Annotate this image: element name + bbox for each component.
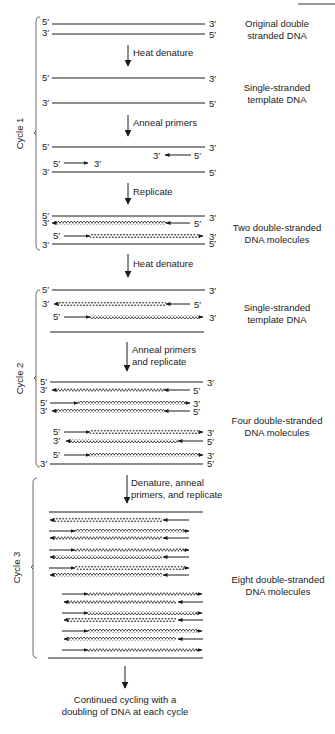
- step-label: Anneal primers: [132, 344, 196, 355]
- end-label: 3′: [53, 436, 60, 446]
- end-label: 3′: [40, 385, 47, 395]
- end-label: 3′: [207, 378, 214, 388]
- step-label: Replicate: [133, 186, 173, 197]
- desc-line: DNA molecules: [222, 427, 332, 439]
- end-label: 5′: [194, 219, 201, 229]
- end-label: 3′: [209, 286, 216, 296]
- replicated-2: [50, 382, 203, 464]
- replicated-3: [48, 512, 203, 658]
- desc-line: template DNA: [222, 94, 332, 106]
- desc-single-1: Single-stranded template DNA: [222, 82, 332, 105]
- end-label: 3′: [209, 313, 216, 323]
- desc-two: Two double-stranded DNA molecules: [222, 222, 332, 245]
- ss-templates-1: [52, 78, 205, 103]
- cycle-1-bracket: [34, 17, 40, 250]
- end-label: 3′: [42, 167, 49, 177]
- desc-line: Two double-stranded: [222, 222, 332, 234]
- annealed-primers-1: [52, 147, 205, 172]
- ss-templates-2: [50, 290, 205, 332]
- end-label: 3′: [42, 28, 49, 38]
- end-label: 5′: [42, 285, 49, 295]
- desc-line: Single-stranded: [222, 302, 332, 314]
- end-label: 3′: [209, 74, 216, 84]
- end-label: 3′: [209, 213, 216, 223]
- end-label: 5′: [209, 168, 216, 178]
- end-label: 5′: [53, 231, 60, 241]
- end-label: 3′: [209, 19, 216, 29]
- desc-line: template DNA: [222, 314, 332, 326]
- desc-line: Eight double-stranded: [222, 574, 334, 586]
- step-label: Denature, anneal: [131, 477, 204, 488]
- end-label: 3′: [42, 218, 49, 228]
- end-label: 5′: [193, 407, 200, 417]
- desc-line: DNA molecules: [222, 234, 332, 246]
- end-label: 3′: [153, 151, 160, 161]
- end-label: 5′: [209, 239, 216, 249]
- desc-four: Four double-stranded DNA molecules: [222, 415, 332, 438]
- desc-line: Four double-stranded: [222, 415, 332, 427]
- end-label: 3′: [42, 98, 49, 108]
- pcr-diagram: [0, 0, 335, 734]
- end-label: 3′: [40, 406, 47, 416]
- end-label: 5′: [209, 30, 216, 40]
- step-label: Heat denature: [133, 258, 193, 269]
- step-label: Heat denature: [133, 47, 193, 58]
- step-label: Anneal primers: [133, 117, 197, 128]
- step-label: primers, and replicate: [131, 489, 222, 500]
- end-label: 3′: [94, 159, 101, 169]
- end-label: 5′: [193, 386, 200, 396]
- end-label: 5′: [42, 142, 49, 152]
- end-label: 5′: [53, 450, 60, 460]
- end-label: 5′: [42, 17, 49, 27]
- desc-original: Original double stranded DNA: [222, 18, 332, 41]
- desc-eight: Eight double-stranded DNA molecules: [222, 574, 334, 597]
- desc-line: stranded DNA: [222, 30, 332, 42]
- footer-line: doubling of DNA at each cycle: [60, 706, 190, 718]
- end-label: 3′: [42, 299, 49, 309]
- end-label: 5′: [53, 312, 60, 322]
- end-label: 5′: [42, 73, 49, 83]
- desc-line: DNA molecules: [222, 586, 334, 598]
- end-label: 5′: [207, 437, 214, 447]
- end-label: 5′: [53, 159, 60, 169]
- desc-line: Original double: [222, 18, 332, 30]
- cycle-label-2: Cycle 2: [14, 363, 25, 395]
- cycle-label-3: Cycle 3: [11, 552, 22, 584]
- footer-caption: Continued cycling with a doubling of DNA…: [60, 694, 190, 717]
- end-label: 5′: [207, 459, 214, 469]
- end-label: 5′: [194, 300, 201, 310]
- original-dsdna: [52, 24, 205, 34]
- end-label: 3′: [40, 459, 47, 469]
- end-label: 3′: [42, 240, 49, 250]
- end-label: 5′: [209, 99, 216, 109]
- end-label: 3′: [209, 143, 216, 153]
- replicated-1: [52, 216, 205, 244]
- footer-line: Continued cycling with a: [60, 694, 190, 706]
- end-label: 5′: [194, 151, 201, 161]
- desc-single-2: Single-stranded template DNA: [222, 302, 332, 325]
- step-label: and replicate: [132, 356, 186, 367]
- cycle-3-bracket: [31, 478, 37, 658]
- cycle-label-1: Cycle 1: [14, 118, 25, 150]
- desc-line: Single-stranded: [222, 82, 332, 94]
